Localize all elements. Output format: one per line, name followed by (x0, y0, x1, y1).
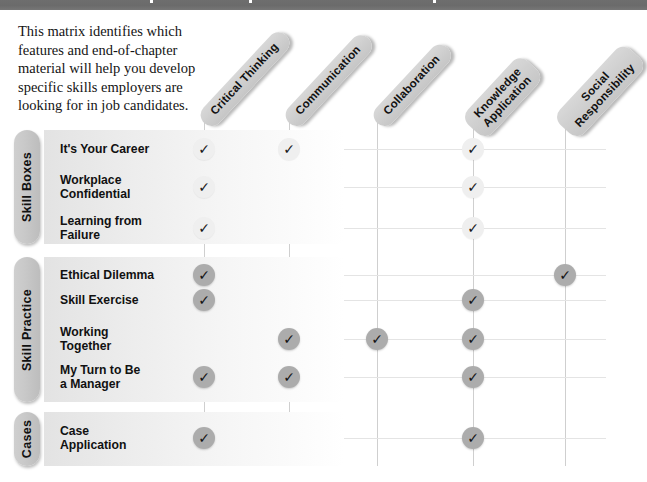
check-case-application-knowledge-application[interactable]: ✓ (462, 427, 484, 449)
row-label-workplace-confidential[interactable]: WorkplaceConfidential (60, 173, 130, 201)
row-label-skill-exercise[interactable]: Skill Exercise (60, 293, 139, 307)
check-its-your-career-knowledge-application[interactable]: ✓ (462, 138, 484, 160)
check-skill-exercise-critical-thinking[interactable]: ✓ (193, 289, 215, 311)
section-tab-label: Skill Practice (20, 288, 34, 370)
row-label-line: Working (60, 325, 111, 339)
top-bar-nick (433, 0, 436, 3)
column-header-label: Collaboration (381, 53, 443, 118)
check-working-together-knowledge-application[interactable]: ✓ (462, 328, 484, 350)
top-bar-nick (249, 0, 252, 3)
row-label-line: Skill Exercise (60, 293, 139, 307)
check-its-your-career-communication[interactable]: ✓ (278, 138, 300, 160)
column-header-communication[interactable]: Communication (281, 31, 376, 130)
check-ethical-dilemma-critical-thinking[interactable]: ✓ (193, 264, 215, 286)
row-label-line: It's Your Career (60, 142, 149, 156)
row-label-line: Confidential (60, 187, 130, 201)
check-workplace-confidential-knowledge-application[interactable]: ✓ (462, 176, 484, 198)
section-tab-skill-boxes[interactable]: Skill Boxes (14, 130, 40, 244)
check-skill-exercise-knowledge-application[interactable]: ✓ (462, 289, 484, 311)
top-bar-nick (150, 0, 153, 3)
column-line-collaboration (377, 112, 378, 466)
column-header-social-responsibility[interactable]: SocialResponsibility (552, 42, 647, 141)
row-label-line: Learning from (60, 214, 142, 228)
row-label-learning-from-failure[interactable]: Learning fromFailure (60, 214, 142, 242)
check-case-application-critical-thinking[interactable]: ✓ (193, 427, 215, 449)
row-label-my-turn-manager[interactable]: My Turn to Bea Manager (60, 363, 140, 391)
row-label-ethical-dilemma[interactable]: Ethical Dilemma (60, 268, 154, 282)
row-label-line: Together (60, 339, 111, 353)
check-learning-from-failure-knowledge-application[interactable]: ✓ (462, 217, 484, 239)
column-line-social-responsibility (565, 112, 566, 466)
row-label-line: Failure (60, 228, 142, 242)
check-working-together-collaboration[interactable]: ✓ (366, 328, 388, 350)
check-workplace-confidential-critical-thinking[interactable]: ✓ (193, 176, 215, 198)
check-my-turn-manager-communication[interactable]: ✓ (278, 366, 300, 388)
top-bar (0, 0, 647, 10)
intro-paragraph: This matrix identifies which features an… (18, 22, 228, 115)
row-label-line: Ethical Dilemma (60, 268, 154, 282)
check-my-turn-manager-knowledge-application[interactable]: ✓ (462, 366, 484, 388)
section-tab-label: Skill Boxes (20, 152, 34, 222)
section-tab-cases[interactable]: Cases (14, 412, 40, 466)
row-label-line: a Manager (60, 377, 140, 391)
column-header-collaboration[interactable]: Collaboration (369, 40, 455, 130)
row-label-line: Application (60, 438, 126, 452)
check-its-your-career-critical-thinking[interactable]: ✓ (193, 138, 215, 160)
row-label-line: Workplace (60, 173, 130, 187)
check-my-turn-manager-critical-thinking[interactable]: ✓ (193, 366, 215, 388)
matrix-page: This matrix identifies which features an… (0, 0, 647, 482)
column-header-label: Communication (293, 43, 363, 117)
row-label-line: My Turn to Be (60, 363, 140, 377)
row-label-case-application[interactable]: CaseApplication (60, 424, 126, 452)
column-header-knowledge-application[interactable]: KnowledgeApplication (460, 54, 544, 141)
check-working-together-communication[interactable]: ✓ (278, 328, 300, 350)
row-label-line: Case (60, 424, 126, 438)
section-tab-label: Cases (20, 420, 34, 458)
row-label-its-your-career[interactable]: It's Your Career (60, 142, 149, 156)
check-learning-from-failure-critical-thinking[interactable]: ✓ (193, 217, 215, 239)
check-ethical-dilemma-social-responsibility[interactable]: ✓ (554, 264, 576, 286)
row-label-working-together[interactable]: WorkingTogether (60, 325, 111, 353)
section-tab-skill-practice[interactable]: Skill Practice (14, 257, 40, 402)
